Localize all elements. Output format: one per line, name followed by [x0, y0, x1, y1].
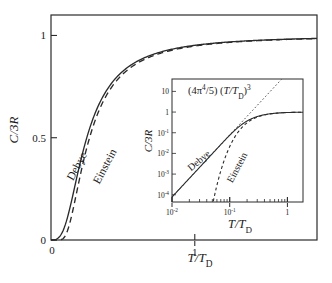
inset-y-tick-label: 10-1 — [157, 128, 169, 138]
main-x-axis-label: T/TD — [188, 250, 213, 269]
main-x-tick-label-zero: 0 — [49, 244, 55, 256]
main-y-tick-label: 1 — [41, 29, 47, 41]
inset-y-tick-label: 10 — [162, 87, 170, 96]
main-y-axis-label: C/3R — [6, 117, 21, 144]
inset-y-tick-label: 10-4 — [157, 190, 169, 200]
figure-canvas: 0.51001C/3RT/TDDebyeEinstein10110-110-21… — [0, 0, 332, 283]
inset-x-tick-label: 10-1 — [224, 207, 236, 217]
inset-y-axis-label: C/3R — [142, 129, 154, 152]
heat-capacity-figure: 0.51001C/3RT/TDDebyeEinstein10110-110-21… — [0, 0, 332, 283]
inset-x-axis-label: T/TD — [228, 217, 252, 235]
inset-y-tick-label: 1 — [165, 108, 169, 117]
inset-y-tick-label: 10-3 — [157, 169, 169, 179]
main-y-tick-label: 0.5 — [32, 132, 46, 144]
main-y-tick-label-zero: 0 — [41, 234, 47, 246]
inset-x-tick-label: 1 — [286, 208, 290, 217]
inset-x-tick-label: 10-2 — [166, 207, 178, 217]
main-debye-label: Debye — [64, 150, 90, 183]
main-einstein-label: Einstein — [90, 146, 118, 185]
inset-y-tick-label: 10-2 — [157, 148, 169, 158]
